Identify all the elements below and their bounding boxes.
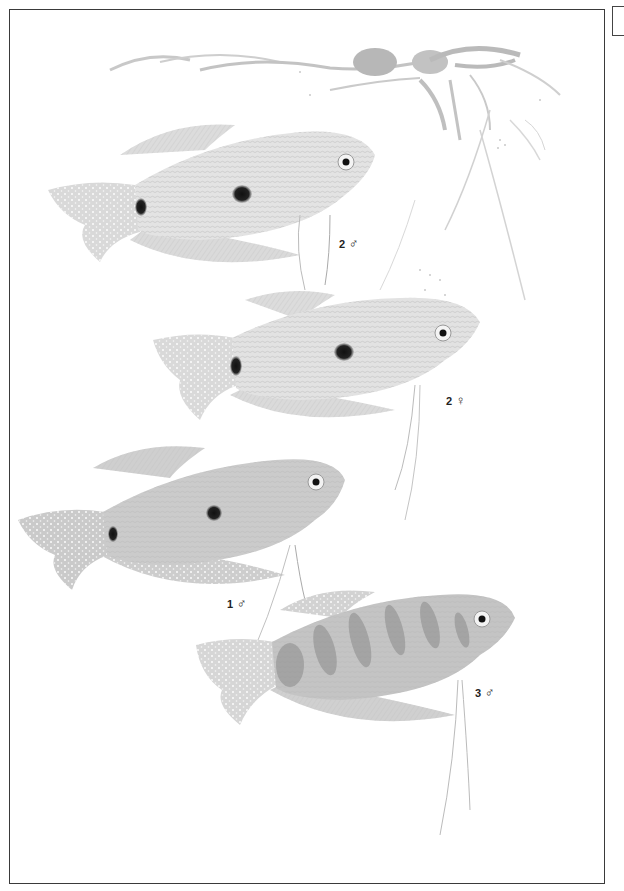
fish-figure-2-male (48, 124, 375, 290)
male-symbol-icon: ♂ (349, 236, 359, 251)
figure-number: 2 (446, 395, 453, 407)
fish-figure-3-male (196, 590, 515, 835)
male-symbol-icon: ♂ (485, 685, 495, 700)
figure-label-3-male: 3♂ (475, 685, 495, 700)
figure-number: 2 (339, 238, 346, 250)
figure-number: 3 (475, 687, 482, 699)
figure-label-2-female: 2♀ (446, 393, 466, 408)
figure-label-1-male: 1♂ (227, 596, 247, 611)
female-symbol-icon: ♀ (456, 393, 466, 408)
figure-number: 1 (227, 598, 234, 610)
male-symbol-icon: ♂ (237, 596, 247, 611)
figure-label-2-male: 2♂ (339, 236, 359, 251)
